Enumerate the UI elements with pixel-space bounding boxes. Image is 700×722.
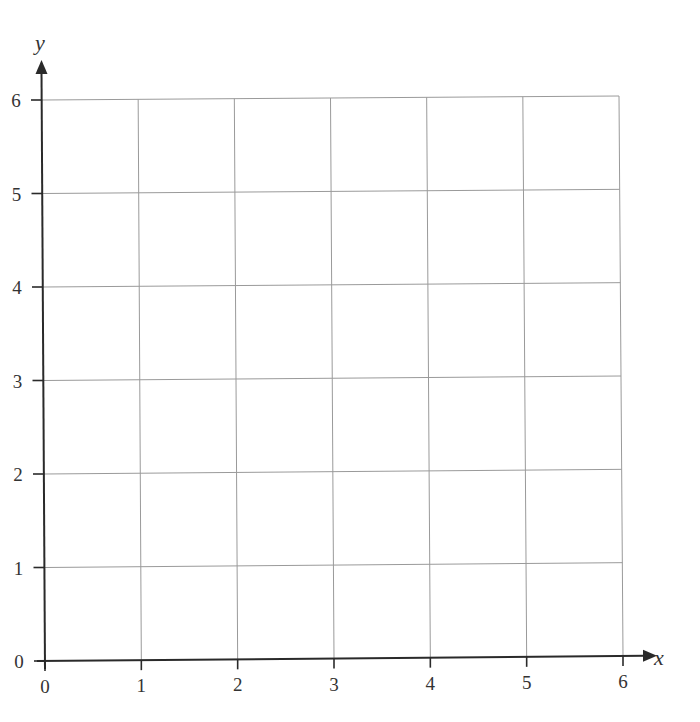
x-axis-label: x: [653, 645, 664, 670]
x-tick-label: 0: [40, 676, 50, 697]
y-tick-label: 6: [11, 90, 21, 111]
y-axis-label: y: [33, 30, 45, 55]
y-tick-label: 3: [13, 371, 23, 392]
grid-lines: [42, 96, 623, 660]
y-tick-label: 1: [14, 558, 24, 579]
x-tick-label: 5: [522, 672, 532, 693]
y-axis-line: [42, 72, 46, 669]
axes: [36, 60, 658, 669]
y-axis-arrow-icon: [36, 60, 48, 74]
x-tick-label: 6: [618, 671, 628, 692]
x-tick-label: 1: [137, 675, 147, 696]
coordinate-grid: 01234560123456 x y: [0, 0, 700, 722]
x-axis-line: [37, 656, 645, 661]
tick-marks: [31, 100, 623, 671]
y-tick-label: 4: [12, 277, 22, 298]
y-tick-label: 0: [14, 651, 24, 672]
x-tick-label: 2: [233, 674, 243, 695]
x-tick-label: 4: [426, 673, 436, 694]
y-tick-label: 5: [12, 184, 22, 205]
y-tick-label: 2: [13, 464, 23, 485]
tick-labels: 01234560123456: [11, 90, 628, 697]
x-tick-label: 3: [329, 674, 339, 695]
